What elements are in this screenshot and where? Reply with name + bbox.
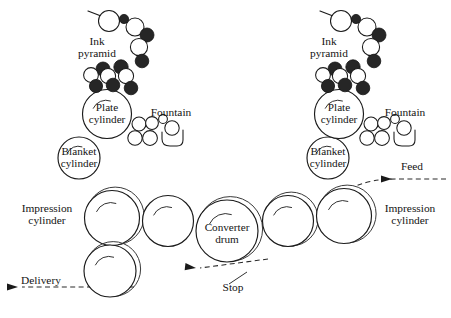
label-impression-cylinder-left-line-2: cylinder <box>28 214 66 226</box>
label-ink-pyramid-right-line-1: Ink <box>321 35 336 47</box>
press-diagram-root: InkpyramidInkpyramidPlatecylinderPlatecy… <box>0 0 451 318</box>
label-fountain-left: Fountain <box>151 106 192 118</box>
fountain-roller-3 <box>143 131 158 146</box>
label-fountain-left-line-1: Fountain <box>151 106 192 118</box>
ink-ductor-arm <box>320 11 333 16</box>
cylinder-body <box>263 196 314 247</box>
transfer-drum-right <box>263 192 319 246</box>
ink-roller-rubber-5 <box>135 54 149 68</box>
label-impression-cylinder-right: Impressioncylinder <box>385 202 436 226</box>
label-impression-cylinder-right-line-1: Impression <box>385 202 436 214</box>
ink-roller-rubber-5 <box>367 54 381 68</box>
transfer-drum-left <box>143 196 194 247</box>
label-impression-cylinder-left-line-1: Impression <box>22 202 73 214</box>
label-blanket-cylinder-right-line-2: cylinder <box>310 157 347 169</box>
fountain-assembly <box>360 115 415 146</box>
label-delivery-line-1: Delivery <box>21 274 61 286</box>
label-feed: Feed <box>401 160 423 172</box>
label-converter-drum-line-2: drum <box>215 233 239 245</box>
label-blanket-cylinder-left: Blanketcylinder <box>61 145 98 169</box>
label-blanket-cylinder-left-line-1: Blanket <box>62 145 98 157</box>
ink-roller-metal-0 <box>99 11 120 32</box>
ink-roller-rubber-13 <box>124 81 138 95</box>
fountain-roller-3 <box>375 131 390 146</box>
cylinder-body <box>317 189 372 244</box>
ink-roller-metal-4 <box>130 38 147 55</box>
label-fountain-right: Fountain <box>385 106 426 118</box>
fountain-roller-1 <box>378 117 391 130</box>
label-plate-cylinder-right-line-1: Plate <box>328 101 350 113</box>
label-ink-pyramid-right-line-2: pyramid <box>310 47 348 59</box>
delivery-drum <box>84 242 141 297</box>
ink-roller-metal-4 <box>362 38 379 55</box>
fountain-roller-2 <box>360 131 374 145</box>
ink-roller-rubber-12 <box>338 78 352 92</box>
label-ink-pyramid-left-line-1: Ink <box>89 35 104 47</box>
fountain-assembly <box>128 115 183 146</box>
label-fountain-right-line-1: Fountain <box>385 106 426 118</box>
label-plate-cylinder-left-line-2: cylinder <box>89 113 126 125</box>
transfer-arrow <box>185 263 197 271</box>
cylinder-body <box>143 196 194 247</box>
fountain-roller-5 <box>397 121 411 135</box>
label-blanket-cylinder-right: Blanketcylinder <box>310 145 347 169</box>
cylinder-body <box>85 191 140 246</box>
label-ink-pyramid-right: Inkpyramid <box>310 35 348 59</box>
label-delivery: Delivery <box>21 274 61 286</box>
label-ink-pyramid-left: Inkpyramid <box>78 35 116 59</box>
label-stop-line-1: Stop <box>223 281 244 293</box>
ink-roller-metal-0 <box>331 11 352 32</box>
label-feed-line-1: Feed <box>401 160 423 172</box>
ink-roller-rubber-11 <box>89 79 102 92</box>
paper-path-feed <box>356 179 446 186</box>
label-converter-drum-line-1: Converter <box>205 221 250 233</box>
label-plate-cylinder-right-line-2: cylinder <box>321 113 358 125</box>
label-blanket-cylinder-left-line-2: cylinder <box>61 157 98 169</box>
cylinder-body <box>84 245 136 297</box>
ink-roller-rubber-13 <box>356 81 370 95</box>
ink-roller-rubber-12 <box>106 78 120 92</box>
label-impression-cylinder-left: Impressioncylinder <box>22 202 73 226</box>
ink-ductor-arm <box>88 11 101 16</box>
fountain-roller-0 <box>132 117 146 131</box>
feed-arrow <box>381 175 392 182</box>
label-stop: Stop <box>223 281 244 293</box>
impression-cylinder-left <box>85 187 145 245</box>
ink-roller-rubber-11 <box>321 79 334 92</box>
label-blanket-cylinder-right-line-1: Blanket <box>311 145 347 157</box>
label-plate-cylinder-left-line-1: Plate <box>96 101 118 113</box>
fountain-roller-0 <box>364 117 378 131</box>
printing-unit-layer <box>84 11 415 147</box>
fountain-roller-5 <box>165 121 179 135</box>
impression-cylinder-right <box>317 185 377 243</box>
delivery-arrow <box>7 283 18 290</box>
fountain-roller-2 <box>128 131 142 145</box>
fountain-roller-1 <box>146 117 159 130</box>
press-diagram-canvas: InkpyramidInkpyramidPlatecylinderPlatecy… <box>0 0 451 318</box>
label-ink-pyramid-left-line-2: pyramid <box>78 47 116 59</box>
label-impression-cylinder-right-line-2: cylinder <box>391 214 429 226</box>
